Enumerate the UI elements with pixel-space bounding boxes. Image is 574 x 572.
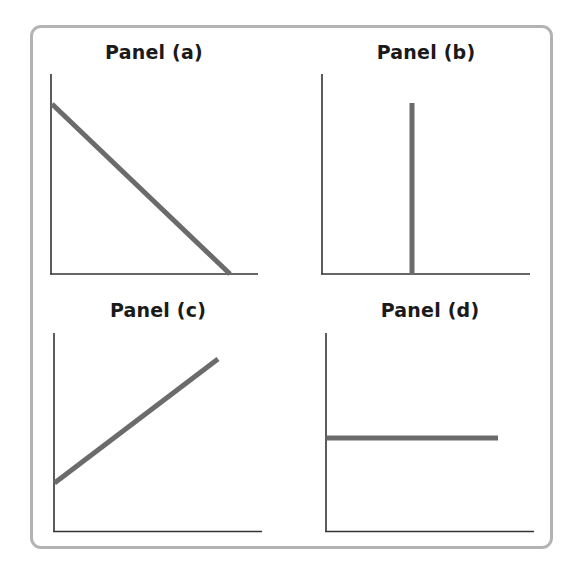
panel-d	[325, 333, 534, 532]
panel-a	[50, 74, 258, 275]
panel-c-curve	[55, 359, 219, 483]
panel-c	[53, 333, 262, 532]
panels-canvas	[0, 0, 574, 572]
panel-a-curve	[52, 104, 230, 274]
panel-b	[321, 74, 530, 275]
